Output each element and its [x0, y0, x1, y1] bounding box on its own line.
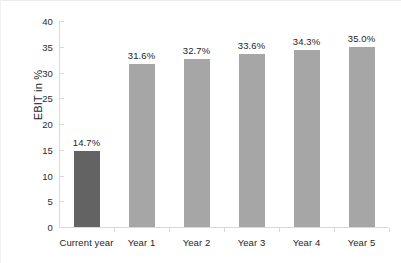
- x-axis-tick-mark: [114, 228, 115, 232]
- bar-group: 32.7%: [169, 21, 224, 227]
- y-axis-tick-label: 25: [1, 93, 53, 104]
- y-axis-tick-label: 20: [1, 119, 53, 130]
- bar-value-label: 31.6%: [128, 50, 155, 61]
- plot-area: 14.7%31.6%32.7%33.6%34.3%35.0%: [59, 21, 389, 227]
- x-axis-tick-mark: [169, 228, 170, 232]
- y-axis-tick-mark: [60, 227, 64, 228]
- bar-chart: EBIT in % 0510152025303540 14.7%31.6%32.…: [0, 0, 401, 263]
- bar-value-label: 34.3%: [293, 36, 320, 47]
- bar: [239, 54, 265, 227]
- x-axis-tick-mark: [389, 228, 390, 232]
- y-axis-tick-label: 15: [1, 144, 53, 155]
- y-axis-tick-label: 5: [1, 196, 53, 207]
- bar-group: 14.7%: [59, 21, 114, 227]
- bar-value-label: 33.6%: [238, 40, 265, 51]
- y-axis-tick-label: 30: [1, 67, 53, 78]
- bar-group: 34.3%: [279, 21, 334, 227]
- bar: [294, 50, 320, 227]
- x-axis-label: Year 5: [322, 237, 401, 248]
- y-axis-tick-label: 0: [1, 222, 53, 233]
- bar: [129, 64, 155, 227]
- x-axis-tick-mark: [224, 228, 225, 232]
- bar-group: 33.6%: [224, 21, 279, 227]
- y-axis-tick-label: 35: [1, 41, 53, 52]
- bar-group: 35.0%: [334, 21, 389, 227]
- bar-value-label: 32.7%: [183, 45, 210, 56]
- bar: [349, 47, 375, 227]
- bar-value-label: 14.7%: [73, 137, 100, 148]
- bar: [184, 59, 210, 227]
- x-axis-tick-mark: [334, 228, 335, 232]
- bar-group: 31.6%: [114, 21, 169, 227]
- x-axis-tick-mark: [279, 228, 280, 232]
- y-axis-tick-label: 10: [1, 170, 53, 181]
- bar: [74, 151, 100, 227]
- y-axis-tick-label: 40: [1, 16, 53, 27]
- bar-value-label: 35.0%: [348, 33, 375, 44]
